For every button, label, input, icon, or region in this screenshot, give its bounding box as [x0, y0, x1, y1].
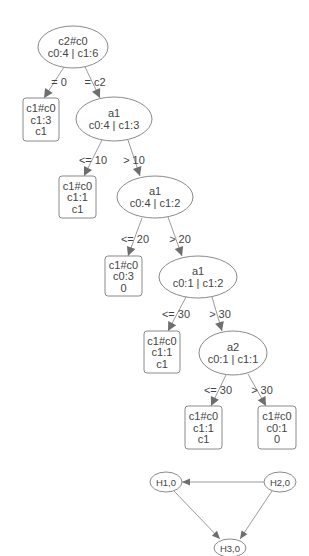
- edge-label: > 30: [251, 384, 273, 396]
- tree-edge: <= 30: [204, 375, 232, 406]
- node-label-line: a1: [192, 265, 204, 277]
- tree-split-node[interactable]: a2c0:1 | c1:1: [199, 331, 267, 375]
- edge-label: = c2: [84, 76, 105, 88]
- tree-edge: > 30: [209, 297, 231, 331]
- node-label-line: a2: [227, 341, 239, 353]
- tree-leaf-node[interactable]: c1#c0c0:30: [105, 256, 142, 296]
- edge-label: > 30: [209, 308, 231, 320]
- arrowhead-icon: [215, 321, 224, 331]
- node-label-line: c1#c0: [189, 410, 218, 422]
- node-label-line: c1:3: [31, 114, 52, 126]
- arrowhead-icon: [258, 396, 266, 406]
- graph-node-h2[interactable]: H2,0: [264, 472, 296, 492]
- tree-split-node[interactable]: c2#c0c0:4 | c1:6: [38, 26, 108, 68]
- node-label-line: c0:4 | c1:6: [48, 47, 99, 59]
- edge-label: <= 30: [204, 384, 232, 396]
- tree-edge: <= 10: [79, 140, 107, 176]
- tree-edge: > 20: [168, 217, 191, 256]
- graph-node-h1[interactable]: H1,0: [150, 472, 182, 492]
- tree-leaf-node[interactable]: c1#c0c1:1c1: [185, 406, 222, 449]
- node-label: H3,0: [220, 543, 240, 554]
- node-label-line: c1: [72, 203, 84, 215]
- node-label-line: c1#c0: [63, 180, 92, 192]
- node-label-line: c1: [198, 433, 210, 445]
- edge-label: <= 20: [121, 233, 149, 245]
- tree-edge: <= 20: [121, 218, 149, 256]
- node-label-line: a1: [108, 107, 120, 119]
- node-label: H2,0: [270, 477, 290, 488]
- bayes-graph-edges: [174, 479, 272, 540]
- node-label-line: c1:1: [152, 346, 173, 358]
- node-label-line: c1#c0: [262, 410, 291, 422]
- node-label-line: a1: [149, 185, 161, 197]
- tree-split-node[interactable]: a1c0:1 | c1:2: [159, 256, 237, 298]
- graph-edge: [174, 491, 220, 539]
- node-label-line: c1:1: [193, 422, 214, 434]
- node-label-line: c0:1 | c1:1: [208, 353, 259, 365]
- tree-edge: = c2: [84, 67, 105, 98]
- graph-edge: [182, 479, 264, 486]
- node-label-line: c1#c0: [147, 335, 176, 347]
- edge-label: > 10: [123, 154, 145, 166]
- edge-line: [240, 491, 272, 539]
- edge-line: [174, 491, 220, 539]
- node-label-line: c1#c0: [109, 259, 138, 271]
- tree-split-node[interactable]: a1c0:4 | c1:2: [117, 176, 193, 218]
- tree-leaf-node[interactable]: c1#c0c1:1c1: [144, 331, 180, 373]
- arrowhead-icon: [133, 166, 142, 176]
- node-label-line: c0:1 | c1:2: [173, 277, 224, 289]
- node-label-line: c1:1: [67, 191, 88, 203]
- node-label-line: c0:1: [267, 422, 288, 434]
- tree-leaf-node[interactable]: c1#c0c1:3c1: [23, 98, 59, 141]
- arrowhead-icon: [240, 530, 247, 539]
- node-label-line: c1: [156, 358, 168, 370]
- node-label-line: c1#c0: [26, 102, 55, 114]
- tree-split-node[interactable]: a1c0:4 | c1:3: [76, 97, 152, 141]
- node-label-line: c1: [35, 125, 47, 137]
- node-label: H1,0: [156, 477, 176, 488]
- edge-label: = 0: [51, 76, 67, 88]
- tree-edge: > 30: [248, 374, 273, 406]
- node-label-line: 0: [120, 282, 126, 294]
- tree-edge: > 10: [123, 140, 145, 176]
- edge-label: <= 30: [162, 308, 190, 320]
- node-label-line: c0:4 | c1:2: [130, 197, 181, 209]
- bayes-graph-nodes: H1,0H2,0H3,0: [150, 472, 296, 556]
- tree-leaf-node[interactable]: c1#c0c0:10: [258, 406, 296, 449]
- graph-edge: [240, 491, 272, 539]
- node-label-line: c0:3: [113, 270, 134, 282]
- diagram-canvas: = 0= c2<= 10> 10<= 20> 20<= 30> 30<= 30>…: [0, 0, 309, 556]
- edge-label: <= 10: [79, 154, 107, 166]
- tree-edge: <= 30: [162, 297, 190, 331]
- edge-label: > 20: [169, 233, 191, 245]
- node-label-line: c2#c0: [58, 35, 87, 47]
- node-label-line: 0: [274, 433, 280, 445]
- node-label-line: c0:4 | c1:3: [89, 119, 140, 131]
- tree-leaf-node[interactable]: c1#c0c1:1c1: [59, 176, 96, 218]
- arrowhead-icon: [182, 479, 190, 486]
- tree-edge: = 0: [44, 67, 67, 98]
- arrowhead-icon: [44, 88, 53, 98]
- graph-node-h3[interactable]: H3,0: [214, 539, 246, 556]
